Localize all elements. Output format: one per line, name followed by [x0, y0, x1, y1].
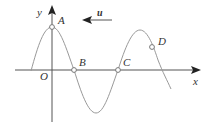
point-b [72, 68, 77, 73]
point-d-label: D [157, 35, 166, 47]
origin-label: O [40, 70, 48, 82]
point-a [50, 25, 55, 30]
point-a-label: A [57, 14, 65, 26]
point-d [150, 45, 155, 50]
y-axis-label: y [36, 6, 42, 18]
x-axis-label: x [192, 75, 198, 87]
point-b-label: B [79, 56, 86, 68]
wave-diagram: y x O A B C D u [0, 0, 213, 133]
point-c [116, 68, 121, 73]
y-axis [48, 5, 56, 122]
point-c-label: C [123, 56, 131, 68]
velocity-label: u [97, 7, 103, 18]
